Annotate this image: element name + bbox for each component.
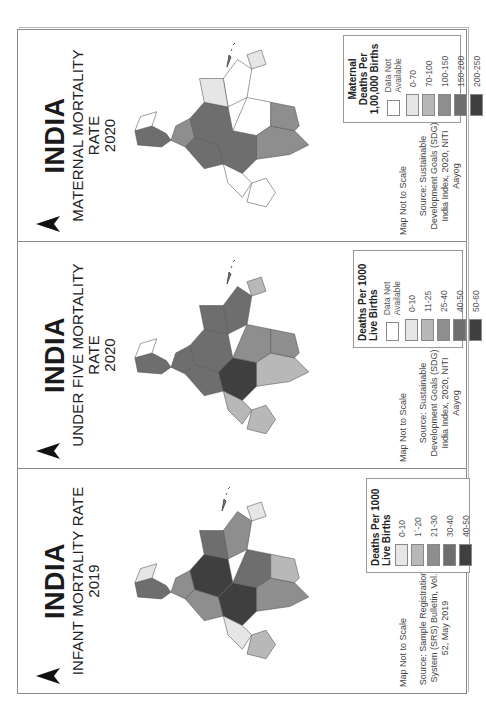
legend-item: 40-50	[453, 257, 466, 341]
legend-item: 1`-20	[411, 485, 424, 566]
legend-label: 21-30	[429, 515, 439, 537]
legend-item: 21-30	[427, 485, 440, 566]
legend-label: 150-200	[456, 56, 466, 87]
legend-swatch	[454, 94, 467, 116]
legend-label: Data Not Available	[383, 42, 403, 93]
legend-label: 0-70	[408, 70, 418, 87]
legend: Deaths Per 1000 Live Births 0-10 1`-20 2…	[366, 478, 470, 573]
maps-frame: INDIA INFANT MORTALITY RATE 2019	[17, 29, 467, 694]
legend-swatch	[387, 100, 400, 116]
islands-icon	[218, 483, 232, 513]
source-note: Source: Sustainable Development Goals (S…	[418, 117, 462, 235]
legend-swatch	[427, 544, 440, 566]
legend-label: 11-25	[423, 291, 433, 312]
legend-swatch	[469, 319, 482, 341]
legend-swatch	[437, 319, 450, 341]
source-note: Source: Sample Registration System (SRS)…	[418, 569, 451, 687]
legend-label: 100-150	[440, 56, 450, 87]
islands-icon	[223, 256, 237, 286]
legend-item: 70-100	[422, 42, 435, 116]
legend-label: 50-60	[471, 290, 481, 312]
legend-item: 0-70	[406, 42, 419, 116]
legend-swatch	[421, 319, 434, 341]
panel-title: INDIA UNDER FIVE MORTALITY RATE 2020	[40, 242, 118, 468]
legend-swatch	[443, 544, 456, 566]
year-title: 2019	[86, 469, 102, 693]
year-title: 2020	[102, 242, 118, 468]
legend-item: 150-200	[454, 42, 467, 116]
legend: Maternal Deaths Per 1,00,000 Births Data…	[343, 35, 461, 123]
india-map-under-five	[133, 258, 323, 448]
islands-icon	[223, 39, 237, 69]
legend-swatch	[411, 544, 424, 566]
legend-swatch	[395, 544, 408, 566]
legend-item: 0-10	[405, 257, 418, 341]
map-notes: Map Not to Scale Source: Sustainable Dev…	[398, 117, 462, 235]
legend-swatch	[386, 322, 399, 341]
metric-title: INFANT MORTALITY RATE	[70, 469, 86, 693]
legend: Deaths Per 1000 Live Births Data Not Ava…	[353, 250, 463, 348]
legend-label: 40-50	[455, 290, 465, 312]
legend-item: 50-60	[469, 257, 482, 341]
legend-label: 40-50	[461, 515, 471, 537]
legend-swatch	[405, 319, 418, 341]
legend-label: 70-100	[424, 61, 434, 87]
legend-item: Data Not Available	[382, 257, 402, 341]
source-note: Source: Sustainable Development Goals (S…	[418, 344, 462, 462]
map-notes: Map Not to Scale Source: Sample Registra…	[398, 569, 451, 687]
legend-label: 200-250	[472, 56, 482, 87]
legend-swatch	[422, 94, 435, 116]
panel-infant-mortality: INDIA INFANT MORTALITY RATE 2019	[18, 469, 466, 693]
legend-title: Deaths Per 1000 Live Births	[357, 257, 379, 341]
panel-title: INDIA INFANT MORTALITY RATE 2019	[40, 469, 102, 693]
legend-label: 0-10	[397, 520, 407, 537]
map-sheet: INDIA INFANT MORTALITY RATE 2019	[0, 0, 486, 708]
legend-title: Deaths Per 1000 Live Births	[370, 485, 392, 566]
scale-note: Map Not to Scale	[398, 117, 408, 235]
legend-label: 1`-20	[413, 517, 423, 537]
legend-label: 30-40	[445, 515, 455, 537]
panel-maternal-mortality: INDIA MATERNAL MORTALITY RATE 2020	[18, 30, 466, 242]
legend-item: 100-150	[438, 42, 451, 116]
panel-under-five-mortality: INDIA UNDER FIVE MORTALITY RATE 2020	[18, 242, 466, 469]
scale-note: Map Not to Scale	[398, 569, 408, 687]
map-notes: Map Not to Scale Source: Sustainable Dev…	[398, 344, 462, 462]
country-title: INDIA	[40, 469, 70, 693]
legend-swatch	[406, 94, 419, 116]
legend-item: Data Not Available	[383, 42, 403, 116]
legend-item: 11-25	[421, 257, 434, 341]
legend-swatch	[470, 94, 483, 116]
metric-title: MATERNAL MORTALITY RATE	[70, 30, 102, 241]
legend-label: 0-10	[407, 295, 417, 312]
legend-item: 25-40	[437, 257, 450, 341]
country-title: INDIA	[40, 30, 70, 241]
legend-item: 200-250	[470, 42, 483, 116]
legend-item: 30-40	[443, 485, 456, 566]
legend-label: Data Not Available	[382, 257, 402, 315]
scale-note: Map Not to Scale	[398, 344, 408, 462]
legend-label: 25-40	[439, 290, 449, 312]
legend-swatch	[438, 94, 451, 116]
panel-title: INDIA MATERNAL MORTALITY RATE 2020	[40, 30, 118, 241]
country-title: INDIA	[40, 242, 70, 468]
legend-swatch	[453, 319, 466, 341]
legend-item: 0-10	[395, 485, 408, 566]
legend-item: 40-50	[459, 485, 472, 566]
metric-title: UNDER FIVE MORTALITY RATE	[70, 242, 102, 468]
legend-title: Maternal Deaths Per 1,00,000 Births	[347, 42, 380, 116]
legend-swatch	[459, 544, 472, 566]
year-title: 2020	[102, 30, 118, 241]
